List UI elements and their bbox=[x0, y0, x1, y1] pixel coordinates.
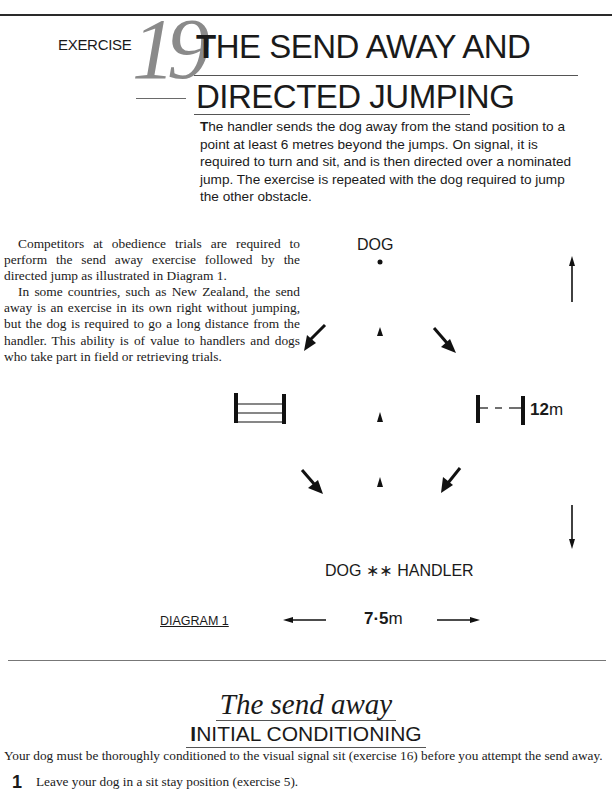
arrow-down-left-icon bbox=[304, 325, 325, 351]
height-dimension-unit: m bbox=[549, 400, 563, 419]
section-divider bbox=[8, 660, 606, 661]
section-title: The send away bbox=[0, 688, 612, 721]
bar-jump-icon bbox=[234, 393, 286, 424]
step-number: 1 bbox=[12, 772, 22, 790]
section-title-text: The send away bbox=[216, 688, 396, 721]
arrow-up-icon bbox=[377, 412, 383, 422]
dimension-arrow-down-icon bbox=[569, 505, 575, 549]
arrow-down-left-icon bbox=[441, 468, 460, 493]
arrow-down-right-icon bbox=[302, 470, 323, 494]
dimension-arrow-up-icon bbox=[569, 256, 575, 302]
step-text: Leave your dog in a sit stay position (e… bbox=[36, 774, 298, 790]
section-lead-paragraph: Your dog must be thoroughly conditioned … bbox=[4, 748, 612, 764]
height-dimension-label: 12m bbox=[530, 400, 563, 420]
arrow-up-icon bbox=[377, 327, 383, 336]
subtitle-text: NITIAL CONDITIONING bbox=[196, 722, 422, 745]
arrow-down-right-icon bbox=[434, 328, 456, 353]
diagram-bottom-label: DOG ∗∗ HANDLER bbox=[325, 561, 474, 580]
width-dimension-label: 7·5m bbox=[364, 609, 403, 629]
dimension-arrow-left-icon bbox=[283, 617, 326, 623]
dog-position-star-icon bbox=[378, 260, 383, 265]
broad-jump-icon bbox=[476, 395, 525, 425]
dimension-arrow-right-icon bbox=[437, 617, 480, 623]
arrow-up-icon bbox=[377, 477, 383, 487]
section-subtitle: INITIAL CONDITIONING bbox=[0, 722, 612, 746]
diagram-caption: DIAGRAM 1 bbox=[160, 614, 229, 628]
width-dimension-value: 7·5 bbox=[364, 609, 389, 628]
diagram-graphic bbox=[0, 0, 612, 660]
width-dimension-unit: m bbox=[389, 609, 403, 628]
height-dimension-value: 12 bbox=[530, 400, 549, 419]
